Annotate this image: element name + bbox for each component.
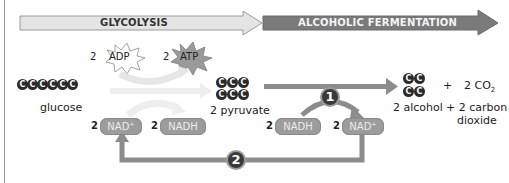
plus-sign: + — [443, 79, 452, 92]
nad-in-coef: 2 — [91, 120, 98, 131]
carbon-atom: C — [227, 77, 238, 88]
glucose-label: glucose — [40, 101, 82, 114]
nadh-in-coef: 2 — [266, 120, 273, 131]
nadh-out-coef: 2 — [151, 120, 158, 131]
glucose-to-pyruvate-arrow — [110, 88, 202, 94]
carbon-atom: C — [216, 77, 227, 88]
step-1-badge: 1 — [320, 87, 340, 107]
carbon-atom: C — [403, 86, 414, 97]
atp-coef: 2 — [163, 51, 169, 62]
pyruvate-label: 2 pyruvate — [210, 104, 270, 117]
co2-subscript: 2 — [491, 86, 495, 94]
nad-plus-pill: NAD⁺ — [100, 118, 142, 135]
glycolysis-label: GLYCOLYSIS — [100, 17, 168, 28]
atp-label: ATP — [180, 51, 198, 62]
carbon-atom: C — [414, 73, 425, 84]
nadh-pill-fermentation: NADH — [275, 118, 321, 135]
carbon-atom: C — [403, 73, 414, 84]
carbon-atom: C — [238, 89, 249, 100]
adp-to-atp-arrow — [120, 72, 182, 82]
nadh-pill: NADH — [160, 118, 206, 135]
nad-out-coef: 2 — [333, 120, 340, 131]
step-2-badge: 2 — [226, 150, 246, 170]
carbon-atom: C — [216, 89, 227, 100]
adp-coef: 2 — [90, 51, 96, 62]
co2-coef: 2 — [464, 79, 471, 92]
adp-label: ADP — [109, 51, 130, 62]
carbon-atom: C — [238, 77, 249, 88]
carbon-dioxide-label: + 2 carbon — [446, 101, 507, 114]
nad-to-nadh-arrow — [128, 103, 178, 115]
alcohol-label: 2 alcohol — [393, 101, 443, 114]
nad-plus-pill-fermentation: NAD⁺ — [342, 118, 384, 135]
carbon-atom: C — [227, 89, 238, 100]
fermentation-label: ALCOHOLIC FERMENTATION — [298, 17, 457, 28]
co2-formula: 2 CO2 — [464, 79, 495, 94]
co2-text: CO — [475, 79, 491, 92]
carbon-atom: C — [67, 79, 78, 90]
carbon-atom: C — [414, 86, 425, 97]
carbon-dioxide-label-2: dioxide — [457, 114, 497, 127]
